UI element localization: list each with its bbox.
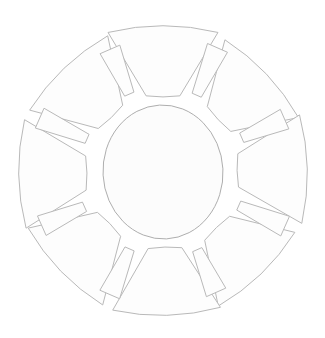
center-oval — [100, 102, 227, 242]
radial-sun-diagram — [0, 0, 325, 338]
diagram-canvas — [0, 0, 325, 338]
